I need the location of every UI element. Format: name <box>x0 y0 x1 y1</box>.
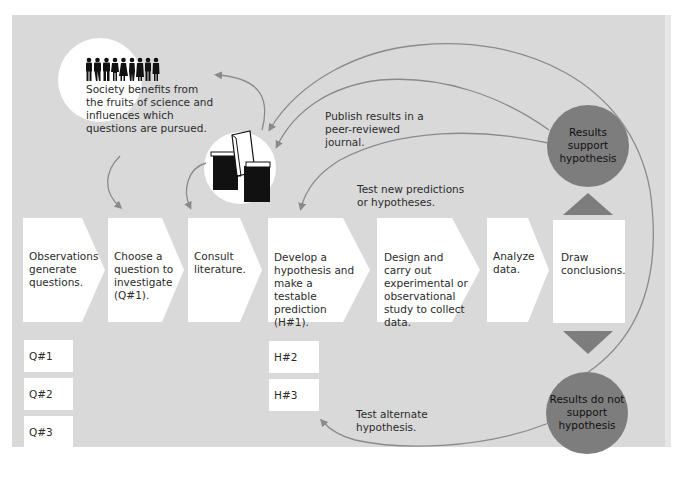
results-not-support-label: Results do not support hypothesis <box>547 393 627 432</box>
step-design-study: Design and carry out experimental or obs… <box>384 251 468 329</box>
step-draw-conclusions: Draw conclusions. <box>561 251 623 277</box>
triangle-up <box>563 193 613 215</box>
question-box-q3: Q#3 <box>24 416 73 448</box>
step-analyze-data: Analyze data. <box>493 250 535 276</box>
question-box-q2: Q#2 <box>24 378 73 410</box>
triangle-down <box>563 331 613 354</box>
arrow-literature-to-society <box>217 75 265 130</box>
arrow-society-to-question <box>108 156 120 207</box>
step-choose-question: Choose a question to investigate (Q#1). <box>114 250 178 302</box>
hypothesis-box-h2: H#2 <box>269 341 319 373</box>
publish-annotation: Publish results in a peer-reviewed journ… <box>325 110 440 149</box>
step-develop-hypothesis: Develop a hypothesis and make a testable… <box>274 251 356 329</box>
test-alternate-annotation: Test alternate hypothesis. <box>356 408 436 434</box>
results-support-label: Results support hypothesis <box>548 126 628 165</box>
society-label: Society benefits from the fruits of scie… <box>86 83 216 135</box>
step-consult-literature: Consult literature. <box>194 250 250 276</box>
hypothesis-box-h3: H#3 <box>269 379 319 411</box>
test-new-annotation: Test new predictions or hypotheses. <box>357 183 477 209</box>
question-box-q1: Q#1 <box>24 340 73 372</box>
arrow-literature-to-consult <box>187 163 206 207</box>
step-observations: Observations generate questions. <box>29 250 97 289</box>
